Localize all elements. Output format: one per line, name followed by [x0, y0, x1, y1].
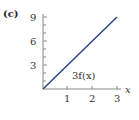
- chart: 3 6 9 1 2 3 x 3f(x): [0, 0, 139, 120]
- y-axis: 3 6 9: [30, 12, 47, 89]
- y-tick-9: 9: [30, 12, 36, 23]
- y-tick-3: 3: [30, 60, 36, 71]
- x-axis-label: x: [125, 84, 131, 95]
- x-tick-1: 1: [64, 93, 70, 104]
- x-tick-3: 3: [114, 93, 120, 104]
- x-axis: 1 2 3 x: [43, 84, 131, 104]
- curve-annotation: 3f(x): [72, 70, 96, 81]
- x-tick-2: 2: [89, 93, 95, 104]
- y-tick-6: 6: [30, 36, 36, 47]
